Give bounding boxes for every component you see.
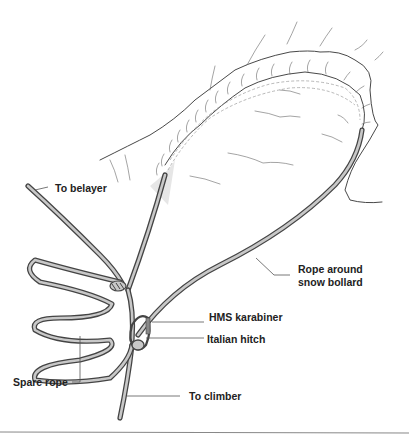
- label-italian-hitch: Italian hitch: [207, 333, 265, 346]
- bottom-rule: [0, 432, 409, 433]
- label-rope-around-bollard-line1: Rope around: [298, 263, 363, 276]
- label-hms-karabiner: HMS karabiner: [209, 311, 283, 324]
- label-to-climber: To climber: [189, 390, 241, 403]
- label-rope-around-bollard-line2: snow bollard: [298, 276, 363, 289]
- label-spare-rope: Spare rope: [13, 376, 68, 389]
- snow-hatching: [156, 60, 370, 175]
- knot: [110, 281, 126, 291]
- italian-hitch: [132, 340, 144, 350]
- label-to-belayer: To belayer: [55, 182, 107, 195]
